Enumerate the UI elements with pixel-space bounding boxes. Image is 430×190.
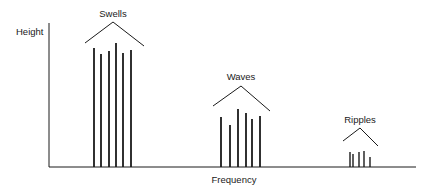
swells-bracket [85,22,144,46]
waves-bracket [213,86,270,111]
y-axis-label: Height [16,26,44,37]
x-axis-label: Frequency [212,174,257,185]
group-swells: Swells [85,8,144,167]
group-ripples: Ripples [343,114,378,167]
axes [49,23,416,167]
wave-spectrum-diagram: Height Frequency Swells Waves Ripples [0,0,430,190]
group-waves: Waves [213,71,270,167]
ripples-bracket [343,128,378,146]
waves-label: Waves [227,71,256,82]
ripples-label: Ripples [344,114,376,125]
swells-label: Swells [99,8,127,19]
